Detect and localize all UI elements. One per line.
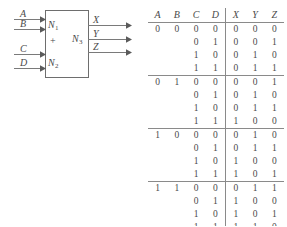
cell-b [167, 155, 186, 168]
cell-x: 0 [226, 129, 246, 143]
cell-a [148, 208, 167, 221]
cell-a [148, 62, 167, 76]
output-arrow-y [126, 36, 132, 42]
cell-y: 0 [245, 168, 264, 182]
cell-x: 0 [226, 182, 246, 196]
cell-d: 0 [206, 155, 226, 168]
cell-z: 0 [265, 23, 284, 37]
cell-c: 1 [187, 115, 206, 129]
table-row: 10010 [148, 49, 284, 62]
cell-b [167, 49, 186, 62]
truth-table-head: A B C D X Y Z [148, 8, 284, 23]
cell-x: 1 [226, 208, 246, 221]
cell-c: 0 [187, 195, 206, 208]
cell-c: 0 [187, 129, 206, 143]
cell-y: 0 [245, 115, 264, 129]
cell-c: 0 [187, 23, 206, 37]
cell-x: 0 [226, 49, 246, 62]
cell-b: 1 [167, 76, 186, 90]
truth-table-container: A B C D X Y Z 00000000100110010110110100… [148, 8, 284, 226]
header-y: Y [245, 8, 264, 23]
cell-b [167, 168, 186, 182]
cell-b [167, 208, 186, 221]
block-label-n2: N2 [48, 58, 58, 70]
cell-d: 1 [206, 221, 226, 226]
cell-b: 0 [167, 129, 186, 143]
cell-b: 1 [167, 182, 186, 196]
cell-d: 0 [206, 102, 226, 115]
cell-y: 1 [245, 102, 264, 115]
cell-y: 1 [245, 89, 264, 102]
cell-y: 0 [245, 76, 264, 90]
cell-a: 1 [148, 182, 167, 196]
cell-c: 0 [187, 36, 206, 49]
cell-z: 0 [265, 221, 284, 226]
block-label-n1: N1 [48, 20, 58, 32]
cell-b: 0 [167, 23, 186, 37]
cell-x: 0 [226, 36, 246, 49]
cell-z: 1 [265, 168, 284, 182]
cell-c: 0 [187, 182, 206, 196]
cell-y: 1 [245, 49, 264, 62]
cell-x: 0 [226, 62, 246, 76]
cell-b [167, 89, 186, 102]
cell-z: 1 [265, 102, 284, 115]
table-row: 11011 [148, 62, 284, 76]
cell-z: 0 [265, 195, 284, 208]
block-label-n3: N3 [72, 34, 82, 46]
cell-b [167, 102, 186, 115]
cell-a [148, 168, 167, 182]
cell-x: 0 [226, 89, 246, 102]
cell-d: 0 [206, 76, 226, 90]
cell-c: 1 [187, 168, 206, 182]
cell-z: 0 [265, 49, 284, 62]
block-label-n2-sub: 2 [55, 62, 59, 70]
cell-c: 1 [187, 62, 206, 76]
cell-c: 1 [187, 208, 206, 221]
table-row: 0000000 [148, 23, 284, 37]
cell-y: 1 [245, 62, 264, 76]
cell-a: 1 [148, 129, 167, 143]
cell-y: 1 [245, 142, 264, 155]
output-arrow-z [126, 49, 132, 55]
cell-z: 1 [265, 76, 284, 90]
table-row: 1100011 [148, 182, 284, 196]
cell-d: 0 [206, 49, 226, 62]
cell-b [167, 62, 186, 76]
input-label-d: D [20, 58, 27, 68]
cell-y: 0 [245, 208, 264, 221]
table-row: 01011 [148, 142, 284, 155]
block-diagram: A B C D N1 + N2 N3 X Y Z [0, 0, 145, 226]
cell-x: 0 [226, 76, 246, 90]
cell-x: 0 [226, 23, 246, 37]
cell-a: 0 [148, 23, 167, 37]
cell-b [167, 195, 186, 208]
cell-y: 1 [245, 221, 264, 226]
block-label-n2-name: N [48, 57, 55, 68]
cell-x: 0 [226, 142, 246, 155]
cell-a [148, 142, 167, 155]
output-label-z: Z [93, 42, 99, 52]
cell-a [148, 195, 167, 208]
cell-a: 0 [148, 76, 167, 90]
cell-y: 0 [245, 155, 264, 168]
header-x: X [226, 8, 246, 23]
cell-b [167, 115, 186, 129]
header-d: D [206, 8, 226, 23]
header-b: B [167, 8, 186, 23]
cell-a [148, 49, 167, 62]
header-z: Z [265, 8, 284, 23]
operator-plus: + [50, 36, 56, 46]
truth-table-body: 0000000010011001011011010000101010100111… [148, 23, 284, 227]
cell-c: 0 [187, 142, 206, 155]
cell-d: 0 [206, 23, 226, 37]
cell-y: 1 [245, 182, 264, 196]
cell-a [148, 155, 167, 168]
cell-d: 1 [206, 62, 226, 76]
table-row: 01100 [148, 195, 284, 208]
cell-z: 1 [265, 36, 284, 49]
cell-z: 1 [265, 142, 284, 155]
header-a: A [148, 8, 167, 23]
cell-z: 1 [265, 182, 284, 196]
table-row: 11110 [148, 221, 284, 226]
